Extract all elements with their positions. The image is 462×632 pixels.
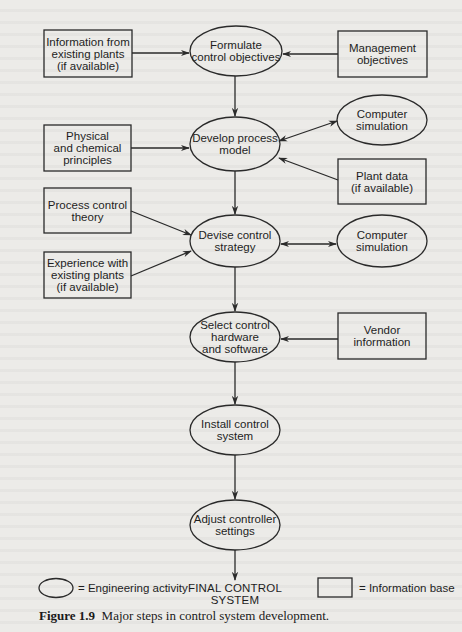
activity-adjust: Adjust controller settings	[190, 500, 280, 550]
figure-number: Figure 1.9	[39, 608, 95, 623]
activity-develop: Develop process model	[190, 117, 280, 171]
activity-formulate: Formulate control objectives	[190, 26, 282, 76]
info-plant-data: Plant data (if available)	[338, 159, 426, 204]
info-vendor: Vendor information	[338, 313, 426, 359]
legend-activity-label: = Engineering activity	[78, 582, 188, 594]
info-physical-principles: Physical and chemical principles	[44, 125, 131, 171]
info-existing-plants: Information from existing plants (if ava…	[44, 30, 132, 77]
legend-rect-icon	[318, 578, 352, 597]
legend-ellipse-icon	[39, 579, 73, 598]
arrow-develop-sim1	[279, 121, 337, 141]
activity-devise: Devise control strategy	[190, 215, 280, 267]
figure-caption: Figure 1.9 Major steps in control system…	[39, 608, 329, 624]
legend-info-label: = Information base	[359, 582, 455, 594]
info-process-control-theory: Process control theory	[44, 188, 131, 233]
info-experience: Experience with existing plants (if avai…	[44, 252, 131, 298]
activity-install: Install control system	[190, 405, 280, 455]
activity-select: Select control hardware and software	[190, 312, 280, 362]
info-management-objectives: Management objectives	[338, 31, 427, 77]
arrow-experience-to-devise	[131, 251, 191, 276]
activity-sim1: Computer simulation	[337, 95, 427, 145]
figure-caption-text: Major steps in control system developmen…	[102, 608, 329, 623]
activity-sim2: Computer simulation	[337, 215, 427, 267]
arrow-pctheory-to-devise	[131, 211, 191, 235]
final-control-system: FINAL CONTROL SYSTEM	[185, 582, 285, 606]
arrow-plantdata-to-develop	[279, 158, 338, 180]
